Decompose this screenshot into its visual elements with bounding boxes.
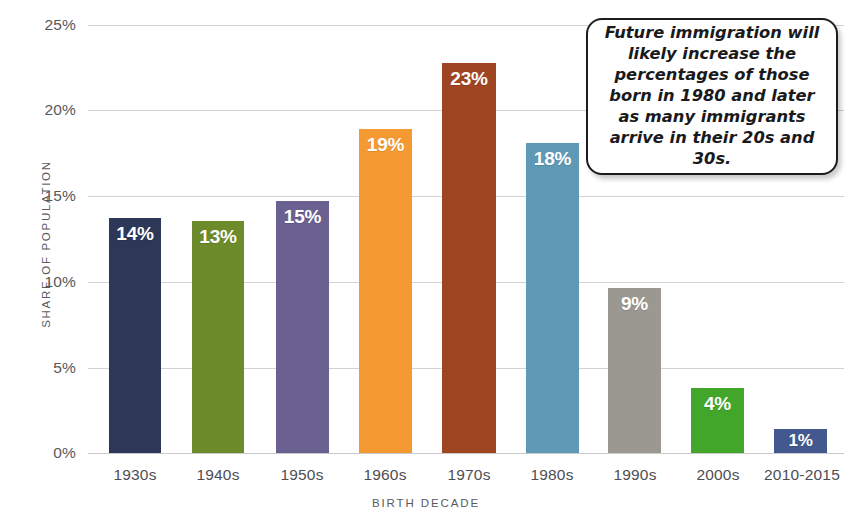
x-tick-1960s: 1960s (363, 466, 406, 484)
y-tick-25: 25% (8, 16, 76, 34)
y-axis-label: SHARE OF POPULATION (40, 124, 52, 364)
bar-1930s: 14% (109, 218, 161, 453)
x-tick-1930s: 1930s (113, 466, 156, 484)
bar-1980s: 18% (526, 143, 579, 453)
bar-2000s: 4% (691, 388, 744, 453)
y-tick-0: 0% (8, 444, 76, 462)
bar-1960s: 19% (359, 129, 412, 453)
bar-value-1970s: 23% (442, 68, 496, 90)
bar-value-1950s: 15% (276, 206, 329, 228)
bar-2010-2015: 1% (774, 429, 827, 453)
bar-1940s: 13% (192, 221, 244, 453)
y-tick-20: 20% (8, 101, 76, 119)
source-note (0, 514, 852, 521)
x-tick-1940s: 1940s (196, 466, 239, 484)
bar-1990s: 9% (608, 288, 661, 453)
callout-box: Future immigration will likely increase … (586, 18, 838, 175)
x-tick-2000s: 2000s (696, 466, 739, 484)
bar-1950s: 15% (276, 201, 329, 453)
x-tick-1970s: 1970s (447, 466, 490, 484)
bar-value-1990s: 9% (608, 293, 661, 315)
x-tick-1950s: 1950s (280, 466, 323, 484)
chart-figure: 25% 20% 15% 10% 5% 0% SHARE OF POPULATIO… (0, 0, 852, 521)
bar-value-1960s: 19% (359, 134, 412, 156)
bar-1970s: 23% (442, 63, 496, 453)
x-tick-1990s: 1990s (613, 466, 656, 484)
plot-area: 25% 20% 15% 10% 5% 0% SHARE OF POPULATIO… (0, 0, 852, 521)
bar-value-2010-2015: 1% (774, 431, 827, 451)
bar-value-1980s: 18% (526, 148, 579, 170)
bar-value-1940s: 13% (192, 226, 244, 248)
bar-value-1930s: 14% (109, 223, 161, 245)
axis-baseline (88, 453, 844, 454)
x-axis-label: BIRTH DECADE (0, 497, 852, 509)
x-tick-1980s: 1980s (530, 466, 573, 484)
bar-value-2000s: 4% (691, 393, 744, 415)
callout-text: Future immigration will likely increase … (600, 23, 824, 170)
x-tick-2010-2015: 2010-2015 (764, 466, 840, 484)
